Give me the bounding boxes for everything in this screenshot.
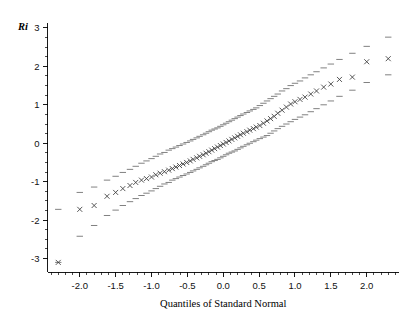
x-tick-label: 1.0 [288, 280, 301, 291]
data-point-x-marker [158, 171, 163, 176]
x-axis-title: Quantiles of Standard Normal [160, 298, 286, 309]
x-tick-label: -2.0 [72, 280, 88, 291]
y-tick-label: -2 [31, 215, 39, 226]
x-tick-label: 0.5 [253, 280, 266, 291]
data-point-x-marker [133, 180, 138, 185]
data-point-x-marker [144, 176, 149, 181]
y-tick-label: 3 [34, 22, 39, 33]
data-point-x-marker [321, 85, 326, 90]
y-tick-label: 0 [34, 138, 39, 149]
x-tick-label: -1.0 [143, 280, 159, 291]
data-point-x-marker [113, 190, 118, 195]
qq-plot-canvas: 3210-1-2-3 -2.0-1.5-1.0-0.50.00.51.01.52… [0, 0, 408, 323]
y-tick-label: -3 [31, 253, 39, 264]
data-point-x-marker [77, 207, 82, 212]
data-point-x-marker [314, 88, 319, 93]
y-axis-ticks [43, 28, 48, 259]
y-axis-tick-labels: 3210-1-2-3 [31, 22, 39, 264]
data-point-x-marker [105, 194, 110, 199]
x-axis-ticks [51, 272, 395, 277]
data-point-markers [56, 56, 391, 265]
data-point-x-marker [386, 56, 391, 61]
qq-plot-figure: 3210-1-2-3 -2.0-1.5-1.0-0.50.00.51.01.52… [0, 0, 408, 323]
data-point-x-marker [162, 169, 167, 174]
data-point-x-marker [139, 178, 144, 183]
x-tick-label: -1.5 [107, 280, 123, 291]
plot-axes [48, 23, 400, 272]
data-point-x-marker [350, 75, 355, 80]
x-tick-label: 0.0 [217, 280, 230, 291]
data-point-x-marker [280, 108, 285, 113]
y-tick-label: 1 [34, 99, 39, 110]
y-axis-title: Ri [17, 21, 28, 32]
data-point-x-marker [92, 203, 97, 208]
data-point-x-marker [303, 95, 308, 100]
data-point-x-marker [275, 111, 280, 116]
data-point-x-marker [127, 183, 132, 188]
y-tick-label: 2 [34, 61, 39, 72]
y-tick-label: -1 [31, 176, 39, 187]
data-point-x-marker [298, 97, 303, 102]
upper-envelope-dashes [55, 37, 391, 209]
x-tick-label: -0.5 [179, 280, 195, 291]
x-tick-label: 1.5 [324, 280, 337, 291]
data-point-x-marker [328, 82, 333, 87]
data-point-x-marker [364, 59, 369, 64]
x-axis-tick-labels: -2.0-1.5-1.0-0.50.00.51.01.52.0 [72, 280, 374, 291]
x-tick-label: 2.0 [360, 280, 373, 291]
data-point-x-marker [284, 105, 289, 110]
lower-envelope-dashes [55, 75, 391, 263]
data-point-x-marker [337, 77, 342, 82]
data-point-x-marker [120, 186, 125, 191]
data-point-x-marker [308, 92, 313, 97]
